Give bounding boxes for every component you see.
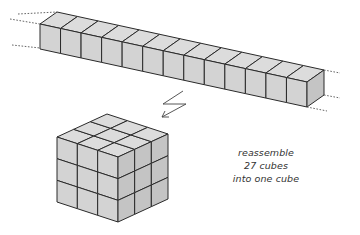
cube-front-face	[40, 24, 61, 53]
cube-front-face	[204, 60, 225, 89]
cube-front-face	[122, 42, 143, 71]
caption-line-1: reassemble	[216, 146, 316, 159]
dashed-line	[324, 70, 340, 73]
cube-front-face	[102, 37, 123, 66]
cube-front-face	[184, 55, 205, 84]
caption-line-3: into one cube	[216, 172, 316, 185]
cube-row	[40, 12, 324, 107]
caption-line-2: 27 cubes	[216, 159, 316, 172]
cube-front-face	[61, 28, 82, 57]
cube-front-face	[245, 69, 266, 98]
cube-front-face	[225, 64, 246, 93]
caption: reassemble 27 cubes into one cube	[216, 146, 316, 185]
squiggle-arrow-icon	[162, 91, 186, 117]
cube-front-face	[286, 78, 307, 107]
cube-front-face	[266, 73, 287, 102]
dashed-line	[307, 107, 327, 111]
dashed-line	[18, 12, 57, 14]
cube-front-face	[143, 46, 164, 75]
cube-front-face	[163, 51, 184, 80]
cube-front-face	[81, 33, 102, 62]
diagram-canvas	[0, 0, 360, 235]
assembled-cube	[57, 114, 168, 222]
dashed-line	[10, 19, 40, 24]
dashed-line	[324, 95, 340, 98]
dashed-line	[12, 45, 40, 48]
